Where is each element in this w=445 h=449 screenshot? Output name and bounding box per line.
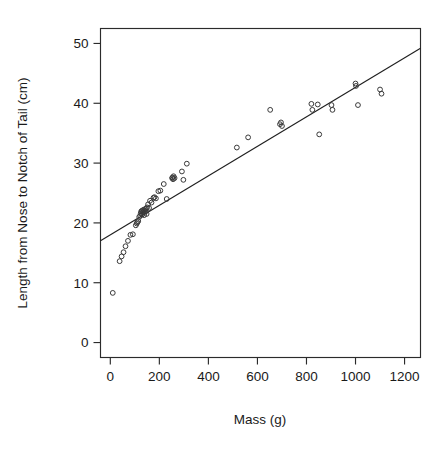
data-point [330, 107, 335, 112]
data-point [161, 182, 166, 187]
x-axis-title: Mass (g) [234, 412, 287, 427]
x-tick-label-200: 200 [148, 369, 171, 384]
y-axis-ticks [94, 43, 101, 342]
data-point [117, 259, 122, 264]
data-point [309, 101, 314, 106]
y-tick-label-50: 50 [73, 36, 88, 51]
y-tick-label-10: 10 [73, 276, 88, 291]
scatter-plot-figure: 020040060080010001200 01020304050 Mass (… [0, 0, 445, 449]
data-point [234, 145, 239, 150]
plot-frame [101, 29, 421, 358]
plot-canvas: 020040060080010001200 01020304050 Mass (… [0, 0, 445, 449]
data-point [315, 102, 320, 107]
x-tick-label-0: 0 [107, 369, 115, 384]
x-tick-label-1200: 1200 [390, 369, 420, 384]
data-point [317, 132, 322, 137]
x-tick-label-1000: 1000 [340, 369, 370, 384]
x-axis-tick-labels: 020040060080010001200 [107, 369, 420, 384]
x-tick-label-800: 800 [295, 369, 318, 384]
y-tick-label-30: 30 [73, 156, 88, 171]
data-points [110, 81, 384, 295]
data-point [110, 290, 115, 295]
data-point [126, 238, 131, 243]
x-tick-label-400: 400 [197, 369, 220, 384]
y-axis-tick-labels: 01020304050 [73, 36, 88, 350]
y-tick-label-40: 40 [73, 96, 88, 111]
x-axis-ticks [110, 358, 404, 365]
data-point [329, 103, 334, 108]
data-point [356, 103, 361, 108]
data-point [123, 244, 128, 249]
data-point [310, 107, 315, 112]
data-point [379, 91, 384, 96]
data-point [184, 161, 189, 166]
y-tick-label-20: 20 [73, 216, 88, 231]
data-point [121, 250, 126, 255]
data-point [180, 169, 185, 174]
data-point [246, 135, 251, 140]
x-tick-label-600: 600 [246, 369, 269, 384]
data-point [181, 177, 186, 182]
data-point [268, 107, 273, 112]
y-tick-label-0: 0 [81, 335, 89, 350]
y-axis-title: Length from Nose to Notch of Tail (cm) [15, 78, 30, 309]
